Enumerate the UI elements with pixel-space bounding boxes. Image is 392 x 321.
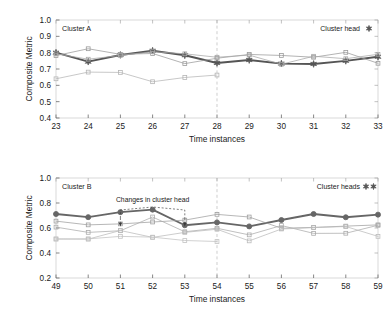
- x-tick-label: 50: [84, 282, 94, 291]
- series-member-3: [54, 70, 219, 83]
- x-tick-label: 54: [212, 282, 222, 291]
- marker-circle: [150, 207, 155, 212]
- marker-circle: [279, 218, 284, 223]
- y-axis-title: Composite Metric: [24, 36, 34, 101]
- x-tick-label: 59: [373, 282, 383, 291]
- x-tick-label: 52: [148, 282, 158, 291]
- x-tick-label: 33: [373, 122, 383, 131]
- series-line: [56, 236, 217, 241]
- y-tick-label: 0.4: [40, 249, 52, 258]
- y-tick-label: 0.9: [40, 32, 52, 41]
- y-tick-label: 1.0: [40, 174, 52, 183]
- x-tick-label: 27: [180, 122, 190, 131]
- figure-container: 0.40.50.60.70.80.91.02324252627282930313…: [0, 0, 392, 321]
- y-tick-label: 0.7: [40, 65, 52, 74]
- x-tick-label: 51: [116, 282, 126, 291]
- x-tick-label: 55: [245, 282, 255, 291]
- x-tick-label: 25: [116, 122, 126, 131]
- x-tick-label: 24: [84, 122, 94, 131]
- panel-label: Cluster A: [62, 24, 91, 33]
- x-axis-title: Time instances: [189, 134, 245, 144]
- y-tick-label: 0.4: [40, 114, 52, 123]
- marker-star: [363, 183, 368, 189]
- y-tick-label: 0.2: [40, 274, 52, 283]
- marker-circle: [311, 212, 316, 217]
- y-tick-label: 0.8: [40, 199, 52, 208]
- y-tick-label: 0.6: [40, 81, 52, 90]
- x-tick-label: 32: [341, 122, 351, 131]
- legend: Cluster head: [320, 25, 371, 32]
- y-tick-label: 0.5: [40, 98, 52, 107]
- chart-panel-cluster-b: 0.20.40.60.81.04950515253545556575859Tim…: [0, 160, 392, 320]
- axes-group: 0.40.50.60.70.80.91.02324252627282930313…: [24, 16, 383, 144]
- x-axis-title: Time instances: [189, 294, 245, 304]
- marker-star: [366, 25, 371, 31]
- x-tick-label: 23: [51, 122, 61, 131]
- x-tick-label: 29: [245, 122, 255, 131]
- chart-svg-cluster-b: 0.20.40.60.81.04950515253545556575859Tim…: [0, 160, 392, 321]
- marker-circle: [54, 212, 59, 217]
- series-line: [56, 72, 217, 82]
- marker-circle: [215, 220, 220, 225]
- chart-svg-cluster-a: 0.40.50.60.70.80.91.02324252627282930313…: [0, 0, 392, 160]
- y-tick-label: 0.8: [40, 49, 52, 58]
- x-tick-label: 56: [277, 282, 287, 291]
- x-tick-label: 49: [51, 282, 61, 291]
- marker-circle: [247, 224, 252, 229]
- marker-star: [371, 183, 376, 189]
- x-tick-label: 28: [212, 122, 222, 131]
- x-tick-label: 30: [277, 122, 287, 131]
- y-axis-title: Composite Metric: [24, 195, 34, 260]
- marker-circle: [86, 215, 91, 220]
- x-tick-label: 57: [309, 282, 319, 291]
- series-member-4: [54, 234, 219, 243]
- plot-frame: [56, 20, 378, 118]
- y-tick-label: 0.6: [40, 224, 52, 233]
- panel-label: Cluster B: [62, 182, 92, 191]
- x-tick-label: 31: [309, 122, 319, 131]
- annotation-label: Changes in cluster head: [116, 196, 190, 204]
- marker-circle: [376, 212, 381, 217]
- legend-label: Cluster head: [320, 25, 360, 32]
- marker-circle: [343, 215, 348, 220]
- data-series-group: [54, 207, 381, 243]
- chart-panel-cluster-a: 0.40.50.60.70.80.91.02324252627282930313…: [0, 0, 392, 160]
- legend: Cluster heads: [317, 183, 376, 190]
- y-tick-label: 1.0: [40, 16, 52, 25]
- legend-label: Cluster heads: [317, 183, 361, 190]
- x-tick-label: 58: [341, 282, 351, 291]
- x-tick-label: 26: [148, 122, 158, 131]
- x-tick-label: 53: [180, 282, 190, 291]
